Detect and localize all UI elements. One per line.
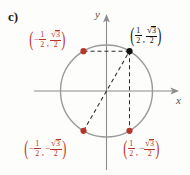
coord-label-top-right: ( 1 2 , √ 3 2 ) xyxy=(129,26,163,45)
comma: , xyxy=(136,148,138,158)
x-denominator: 2 xyxy=(128,150,134,158)
x-axis-label: x xyxy=(176,94,181,106)
radicand: 3 xyxy=(56,139,61,148)
x-numerator: 1 xyxy=(135,27,141,35)
y-fraction: √ 3 2 xyxy=(146,26,157,45)
point-bottom-left xyxy=(80,128,86,134)
paren-right-icon: ) xyxy=(158,27,162,43)
coord-label-top-left: ( − 1 2 , √ 3 2 ) xyxy=(28,30,67,49)
paren-left-icon: ( xyxy=(123,140,127,156)
paren-right-icon: ) xyxy=(156,140,160,156)
paren-left-icon: ( xyxy=(24,140,28,156)
y-numerator-radical: √ 3 xyxy=(50,139,61,148)
paren-left-icon: ( xyxy=(130,27,134,43)
x-numerator: 1 xyxy=(128,140,134,148)
y-numerator-radical: √ 3 xyxy=(144,139,155,148)
y-fraction: √ 3 2 xyxy=(50,30,61,49)
comma: , xyxy=(143,35,145,45)
paren-right-icon: ) xyxy=(62,140,66,156)
radicand: 3 xyxy=(55,30,60,39)
x-denominator: 2 xyxy=(135,37,141,45)
x-fraction: 1 2 xyxy=(39,31,46,49)
x-fraction: 1 2 xyxy=(135,27,142,45)
coord-label-bottom-left: ( − 1 2 , − √ 3 2 ) xyxy=(23,139,67,158)
point-top-left xyxy=(80,48,86,54)
x-fraction: 1 2 xyxy=(128,140,135,158)
x-fraction: 1 2 xyxy=(34,140,41,158)
comma: , xyxy=(42,148,44,158)
y-fraction: √ 3 2 xyxy=(50,139,61,158)
paren-left-icon: ( xyxy=(29,31,33,47)
point-bottom-right xyxy=(126,128,132,134)
point-top-right xyxy=(126,48,132,54)
part-label: c) xyxy=(8,9,18,25)
x-denominator: 2 xyxy=(39,41,45,49)
y-denominator: 2 xyxy=(53,150,59,158)
comma: , xyxy=(47,39,49,49)
y-denominator: 2 xyxy=(53,41,59,49)
paren-right-icon: ) xyxy=(62,31,66,47)
coord-label-bottom-right: ( 1 2 , − √ 3 2 ) xyxy=(122,139,161,158)
y-axis-label: y xyxy=(95,8,100,20)
radicand: 3 xyxy=(151,26,156,35)
x-numerator: 1 xyxy=(34,140,40,148)
y-denominator: 2 xyxy=(149,37,155,45)
y-denominator: 2 xyxy=(147,150,153,158)
y-numerator-radical: √ 3 xyxy=(50,30,61,39)
y-fraction: √ 3 2 xyxy=(144,139,155,158)
x-denominator: 2 xyxy=(34,150,40,158)
x-numerator: 1 xyxy=(39,31,45,39)
radicand: 3 xyxy=(149,139,154,148)
y-numerator-radical: √ 3 xyxy=(146,26,157,35)
